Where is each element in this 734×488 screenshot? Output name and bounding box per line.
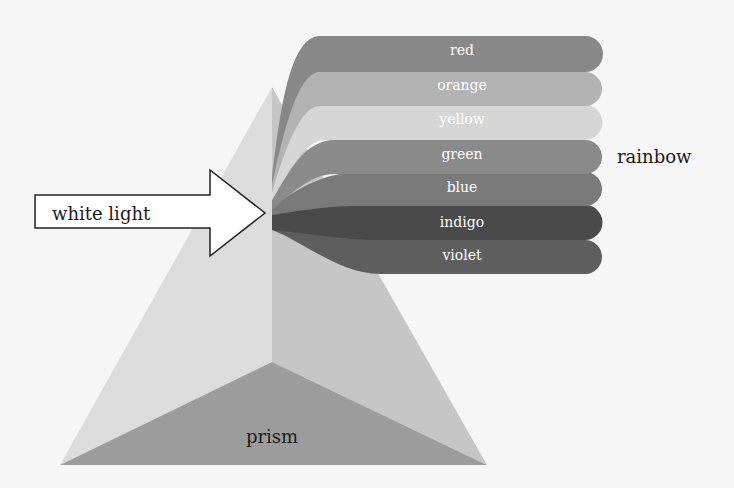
rainbow-label: rainbow xyxy=(617,146,692,167)
band-label-green: green xyxy=(441,146,482,162)
rainbow-bands xyxy=(272,36,603,274)
white-light-label: white light xyxy=(52,203,151,224)
band-label-yellow: yellow xyxy=(438,111,485,127)
prism-diagram: red orange yellow green blue indigo viol… xyxy=(0,0,734,488)
prism-label: prism xyxy=(246,426,298,447)
band-label-blue: blue xyxy=(447,179,478,195)
band-label-orange: orange xyxy=(437,77,487,93)
band-label-violet: violet xyxy=(441,247,482,263)
band-label-red: red xyxy=(450,42,474,58)
band-label-indigo: indigo xyxy=(440,214,484,230)
band-indigo xyxy=(272,205,603,240)
